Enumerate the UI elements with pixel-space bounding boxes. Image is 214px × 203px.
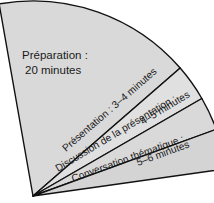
fan-diagram-svg: Préparation : 20 minutes Présentation : … <box>0 0 214 203</box>
label-preparation-line1: Préparation : <box>22 49 88 61</box>
label-preparation-line2: 20 minutes <box>25 64 82 76</box>
fan-diagram: Préparation : 20 minutes Présentation : … <box>0 0 214 203</box>
